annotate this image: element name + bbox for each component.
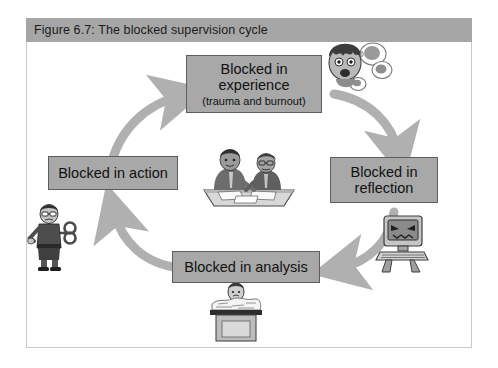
buried-in-paperwork-illustration — [206, 280, 266, 344]
angry-computer-illustration — [374, 212, 430, 274]
node-reflection-label-line2: reflection — [355, 180, 414, 196]
node-experience-label-line1: Blocked in — [221, 61, 288, 77]
figure-title-bar: Figure 6.7: The blocked supervision cycl… — [26, 18, 472, 42]
wind-up-person-illustration — [26, 200, 82, 272]
node-analysis-label: Blocked in analysis — [184, 259, 307, 275]
two-people-at-table-illustration — [196, 144, 302, 214]
arrow-experience-to-reflection — [334, 94, 398, 152]
stressed-face-illustration — [324, 38, 398, 96]
node-experience-label-line2: experience — [219, 77, 290, 93]
figure-container: Figure 6.7: The blocked supervision cycl… — [0, 0, 498, 368]
node-experience-sublabel: (trauma and burnout) — [202, 95, 305, 107]
node-blocked-in-experience[interactable]: Blocked in experience (trauma and burnou… — [186, 55, 322, 113]
node-blocked-in-analysis[interactable]: Blocked in analysis — [172, 251, 320, 283]
arrow-analysis-to-action — [114, 212, 180, 268]
figure-title: Figure 6.7: The blocked supervision cycl… — [26, 23, 268, 37]
node-action-label: Blocked in action — [58, 165, 168, 181]
node-blocked-in-reflection[interactable]: Blocked in reflection — [330, 157, 438, 203]
node-reflection-label-line1: Blocked in — [351, 164, 418, 180]
node-blocked-in-action[interactable]: Blocked in action — [48, 156, 178, 190]
